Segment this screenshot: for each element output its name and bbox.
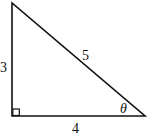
right-triangle-diagram: 3 5 4 θ	[0, 0, 149, 136]
horizontal-side-label: 4	[72, 121, 79, 136]
hypotenuse-label: 5	[82, 48, 89, 63]
right-angle-marker	[13, 109, 19, 116]
vertical-side-label: 3	[0, 60, 7, 75]
triangle-outline	[12, 3, 145, 116]
angle-theta-label: θ	[120, 101, 127, 116]
